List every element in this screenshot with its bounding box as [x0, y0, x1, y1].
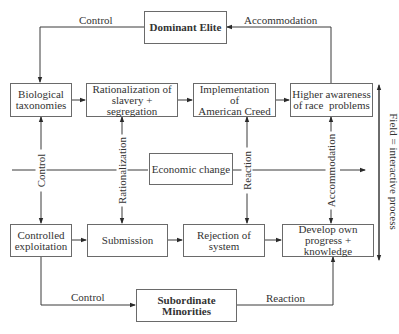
- node-label: Economic change: [152, 164, 231, 175]
- node-label-line: of race problems: [293, 100, 370, 111]
- edge-label-control-top: Control: [79, 15, 113, 26]
- node-label-line: system: [209, 241, 240, 252]
- node-label: Subordinate Minorities: [137, 295, 236, 317]
- edge-label-rationalization-vertical: Rationalization: [117, 135, 128, 207]
- node-rejection: Rejection of system: [183, 224, 265, 257]
- node-dominant-elite: Dominant Elite: [144, 11, 227, 44]
- node-label-line: taxonomies: [16, 100, 67, 111]
- node-label-line: progress + knowledge: [283, 235, 373, 257]
- node-label-line: American Creed: [198, 106, 270, 117]
- edge-label-control-bottom: Control: [71, 292, 105, 303]
- field-label: Field = interactive process: [388, 107, 399, 237]
- node-implementation: Implementation of American Creed: [193, 83, 276, 117]
- node-label-line: Implementation of: [194, 84, 275, 106]
- node-higher-awareness: Higher awareness of race problems: [290, 83, 373, 117]
- node-subordinate-minorities: Subordinate Minorities: [136, 289, 237, 322]
- node-submission: Submission: [87, 224, 168, 257]
- edge-label-reaction-vertical: Reaction: [242, 148, 253, 194]
- node-label: Submission: [102, 235, 153, 246]
- node-label-line: slavery + segregation: [87, 95, 177, 117]
- node-label-line: Controlled: [17, 230, 64, 241]
- node-label-line: Rejection of: [197, 230, 251, 241]
- edge-label-accommodation-vertical: Accommodation: [326, 132, 337, 210]
- edge-label-reaction-bottom: Reaction: [266, 293, 305, 304]
- node-label-line: Rationalization of: [92, 84, 171, 95]
- node-develop-own: Develop own progress + knowledge: [282, 224, 374, 257]
- node-controlled-exploitation: Controlled exploitation: [10, 224, 72, 257]
- node-biological-taxonomies: Biological taxonomies: [10, 83, 72, 117]
- edge-label-accommodation-top: Accommodation: [244, 15, 317, 26]
- node-label-line: exploitation: [15, 241, 68, 252]
- node-economic-change: Economic change: [149, 153, 233, 185]
- node-label: Dominant Elite: [150, 22, 222, 33]
- edge-label-control-vertical: Control: [36, 150, 47, 192]
- node-rationalization: Rationalization of slavery + segregation: [86, 83, 178, 117]
